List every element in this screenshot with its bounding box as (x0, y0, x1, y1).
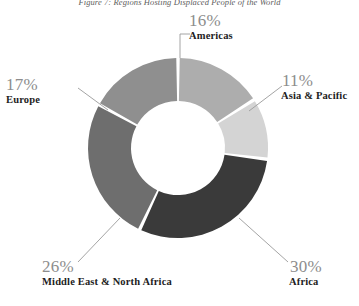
leader-line-asia-pacific (249, 86, 282, 111)
callout-africa-label: Africa (289, 276, 322, 288)
callout-middle-east-north-africa-percent: 26% (42, 258, 172, 276)
segment-middle-east-north-africa[interactable] (88, 106, 157, 229)
callout-americas: 16% Americas (189, 12, 233, 42)
callout-asia-pacific: 11% Asia & Pacific (281, 72, 347, 102)
callout-americas-percent: 16% (189, 12, 233, 30)
callout-americas-label: Americas (189, 30, 233, 42)
callout-middle-east-north-africa: 26% Middle East & North Africa (42, 258, 172, 288)
callout-europe-label: Europe (6, 94, 40, 106)
callout-europe-percent: 17% (6, 76, 40, 94)
callout-africa-percent: 30% (289, 258, 322, 276)
leader-line-mena (78, 218, 120, 262)
segment-africa[interactable] (141, 155, 267, 238)
callout-europe: 17% Europe (6, 76, 40, 106)
figure-container: Figure 7: Regions Hosting Displaced Peop… (0, 0, 359, 306)
leader-line-africa (239, 218, 288, 262)
callout-asia-pacific-percent: 11% (281, 72, 347, 90)
callout-asia-pacific-label: Asia & Pacific (281, 90, 347, 102)
callout-middle-east-north-africa-label: Middle East & North Africa (42, 276, 172, 288)
callout-africa: 30% Africa (289, 258, 322, 288)
donut-segments (88, 58, 268, 238)
